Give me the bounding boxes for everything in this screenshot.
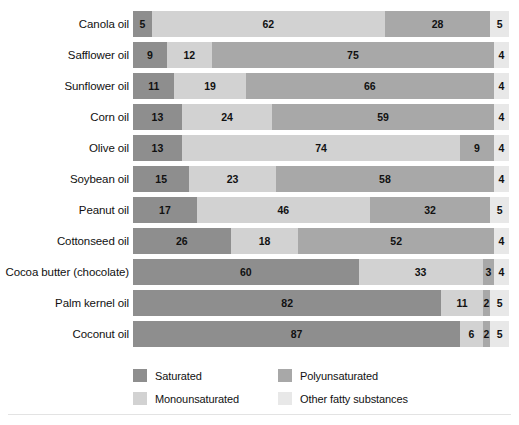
segment-value: 4 xyxy=(499,266,505,278)
bar-segment-mono: 11 xyxy=(441,290,482,316)
bar-segment-sat: 60 xyxy=(133,259,359,285)
bar-segment-mono: 19 xyxy=(174,73,245,99)
segment-value: 23 xyxy=(227,173,239,185)
stacked-bar-chart: Canola oil562285Safflower oil912754Sunfl… xyxy=(0,0,519,425)
legend-item-poly: Polyunsaturated xyxy=(278,366,423,385)
legend-item-mono: Monounsaturated xyxy=(133,389,278,408)
bar-segment-other: 5 xyxy=(490,321,509,347)
segment-value: 4 xyxy=(499,235,505,247)
bar-segment-mono: 33 xyxy=(359,259,483,285)
segment-value: 4 xyxy=(499,49,505,61)
segment-value: 26 xyxy=(176,235,188,247)
bar-segment-poly: 52 xyxy=(298,228,494,254)
chart-row: Coconut oil87625 xyxy=(0,321,519,347)
segment-value: 75 xyxy=(347,49,359,61)
stacked-bar: 1746325 xyxy=(133,197,509,223)
row-label: Olive oil xyxy=(0,142,133,155)
stacked-bar: 1119664 xyxy=(133,73,509,99)
segment-value: 4 xyxy=(499,173,505,185)
bar-segment-sat: 9 xyxy=(133,42,167,68)
row-label: Soybean oil xyxy=(0,173,133,186)
segment-value: 13 xyxy=(152,142,164,154)
bar-segment-poly: 32 xyxy=(370,197,490,223)
segment-value: 11 xyxy=(456,297,467,309)
bar-segment-sat: 13 xyxy=(133,135,182,161)
segment-value: 3 xyxy=(485,266,491,278)
bottom-divider xyxy=(8,414,511,415)
row-label: Corn oil xyxy=(0,111,133,124)
bar-segment-sat: 26 xyxy=(133,228,231,254)
segment-value: 58 xyxy=(379,173,391,185)
bar-segment-sat: 11 xyxy=(133,73,174,99)
segment-value: 28 xyxy=(432,18,444,30)
bar-segment-other: 4 xyxy=(494,135,509,161)
segment-value: 4 xyxy=(499,80,505,92)
bar-segment-sat: 87 xyxy=(133,321,460,347)
stacked-bar: 912754 xyxy=(133,42,509,68)
segment-value: 9 xyxy=(147,49,153,61)
chart-row: Soybean oil1523584 xyxy=(0,166,519,192)
bar-segment-poly: 2 xyxy=(483,290,491,316)
stacked-bar: 562285 xyxy=(133,11,509,37)
chart-legend: SaturatedPolyunsaturatedMonounsaturatedO… xyxy=(133,366,433,412)
bar-segment-mono: 18 xyxy=(231,228,299,254)
segment-value: 5 xyxy=(497,18,503,30)
segment-value: 18 xyxy=(259,235,271,247)
segment-value: 19 xyxy=(204,80,216,92)
bar-segment-other: 5 xyxy=(490,11,509,37)
bar-segment-mono: 12 xyxy=(167,42,212,68)
legend-label: Saturated xyxy=(155,370,202,382)
segment-value: 4 xyxy=(499,111,505,123)
bar-segment-other: 4 xyxy=(494,228,509,254)
legend-swatch-icon xyxy=(133,392,147,405)
bar-segment-sat: 15 xyxy=(133,166,189,192)
legend-item-other: Other fatty substances xyxy=(278,389,423,408)
bar-segment-other: 4 xyxy=(494,73,509,99)
bar-segment-poly: 75 xyxy=(212,42,494,68)
bar-segment-other: 4 xyxy=(494,42,509,68)
row-label: Cottonseed oil xyxy=(0,235,133,248)
bar-segment-poly: 2 xyxy=(483,321,491,347)
bar-segment-other: 4 xyxy=(494,104,509,130)
bar-segment-poly: 59 xyxy=(272,104,494,130)
chart-row: Sunflower oil1119664 xyxy=(0,73,519,99)
row-label: Sunflower oil xyxy=(0,80,133,93)
bar-segment-mono: 74 xyxy=(182,135,460,161)
bar-segment-sat: 17 xyxy=(133,197,197,223)
row-label: Palm kernel oil xyxy=(0,297,133,310)
segment-value: 87 xyxy=(291,328,303,340)
bar-segment-other: 5 xyxy=(490,290,509,316)
segment-value: 32 xyxy=(424,204,436,216)
segment-value: 59 xyxy=(377,111,389,123)
segment-value: 15 xyxy=(155,173,167,185)
bar-segment-mono: 46 xyxy=(197,197,370,223)
chart-row: Olive oil137494 xyxy=(0,135,519,161)
segment-value: 5 xyxy=(497,328,503,340)
segment-value: 9 xyxy=(474,142,480,154)
bar-segment-poly: 58 xyxy=(276,166,494,192)
bar-segment-mono: 24 xyxy=(182,104,272,130)
row-label: Safflower oil xyxy=(0,49,133,62)
segment-value: 4 xyxy=(499,142,505,154)
stacked-bar: 603334 xyxy=(133,259,509,285)
segment-value: 33 xyxy=(415,266,427,278)
segment-value: 24 xyxy=(221,111,233,123)
stacked-bar: 137494 xyxy=(133,135,509,161)
stacked-bar: 1324594 xyxy=(133,104,509,130)
segment-value: 6 xyxy=(468,328,474,340)
bar-segment-other: 4 xyxy=(494,166,509,192)
legend-label: Other fatty substances xyxy=(300,393,408,405)
bar-segment-sat: 13 xyxy=(133,104,182,130)
segment-value: 66 xyxy=(364,80,376,92)
legend-item-sat: Saturated xyxy=(133,366,278,385)
chart-row: Safflower oil912754 xyxy=(0,42,519,68)
bar-segment-poly: 3 xyxy=(483,259,494,285)
row-label: Coconut oil xyxy=(0,328,133,341)
segment-value: 5 xyxy=(139,18,145,30)
chart-row: Canola oil562285 xyxy=(0,11,519,37)
segment-value: 82 xyxy=(281,297,293,309)
segment-value: 5 xyxy=(497,297,503,309)
chart-row: Corn oil1324594 xyxy=(0,104,519,130)
legend-label: Monounsaturated xyxy=(155,393,239,405)
segment-value: 17 xyxy=(159,204,171,216)
